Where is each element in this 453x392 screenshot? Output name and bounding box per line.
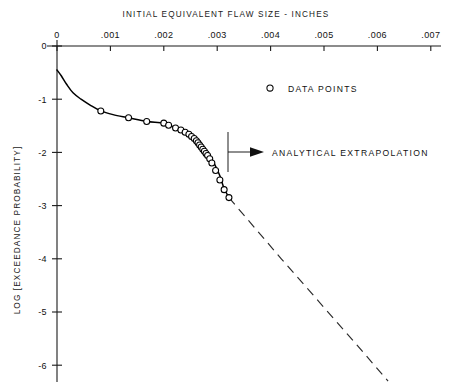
data-point-marker (144, 119, 150, 125)
data-point-marker (209, 160, 215, 166)
fitted-data-curve (57, 70, 229, 198)
data-point-marker (98, 108, 104, 114)
data-point-marker (213, 167, 219, 173)
annotation-analytical-extrapolation: ANALYTICAL EXTRAPOLATION (228, 132, 429, 172)
x-axis-ticks (57, 46, 431, 51)
x-tick-label: .006 (368, 30, 387, 40)
x-tick-label: .001 (101, 30, 120, 40)
legend-label-data-points: DATA POINTS (288, 84, 358, 94)
x-axis: 0.001.002.003.004.005.006.007 (47, 30, 441, 51)
data-point-marker (221, 187, 227, 193)
analytical-extrapolation-line (229, 198, 388, 382)
chart-legend: DATA POINTS (267, 84, 358, 94)
y-axis: 0-1-2-3-4-5-6 LOG [EXCEEDANCE PROBABILIT… (13, 40, 62, 382)
y-tick-label: -4 (38, 254, 47, 264)
x-tick-label: .007 (421, 30, 440, 40)
chart-figure: INITIAL EQUIVALENT FLAW SIZE - INCHES 0.… (0, 0, 453, 392)
chart-title: INITIAL EQUIVALENT FLAW SIZE - INCHES (123, 10, 330, 19)
x-tick-label: 0 (54, 30, 59, 40)
y-axis-tick-labels: 0-1-2-3-4-5-6 (38, 41, 47, 370)
x-tick-label: .004 (261, 30, 280, 40)
x-axis-tick-labels: 0.001.002.003.004.005.006.007 (54, 30, 440, 40)
data-point-marker (226, 195, 232, 201)
data-point-markers (98, 108, 232, 201)
x-tick-label: .005 (314, 30, 333, 40)
data-point-marker (126, 115, 132, 121)
chart-canvas: INITIAL EQUIVALENT FLAW SIZE - INCHES 0.… (0, 0, 453, 392)
y-tick-label: -2 (38, 148, 47, 158)
data-point-marker (217, 177, 223, 183)
y-tick-label: 0 (42, 41, 47, 51)
y-tick-label: -5 (38, 307, 47, 317)
y-tick-label: -6 (38, 361, 47, 371)
y-axis-title: LOG [EXCEEDANCE PROBABILITY] (13, 146, 22, 315)
annotation-arrowhead-icon (250, 147, 264, 157)
legend-marker-open-circle-icon (267, 85, 273, 91)
x-tick-label: .003 (208, 30, 227, 40)
y-tick-label: -1 (38, 95, 47, 105)
annotation-label: ANALYTICAL EXTRAPOLATION (272, 148, 429, 158)
x-tick-label: .002 (154, 30, 173, 40)
y-tick-label: -3 (38, 201, 47, 211)
data-point-marker (166, 122, 172, 128)
